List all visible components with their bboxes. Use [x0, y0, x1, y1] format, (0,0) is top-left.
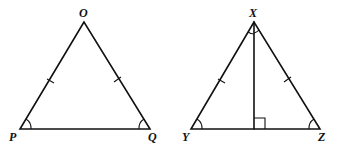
label-p: P [9, 130, 17, 144]
geometry-diagram: O P Q X Y Z [0, 0, 339, 151]
triangle-opq-outline [20, 22, 150, 129]
angle-arc-y [197, 119, 202, 129]
label-z: Z [317, 130, 326, 144]
triangle-xyz-outline [191, 22, 320, 129]
angle-arc-x-left [248, 32, 254, 34]
triangle-xyz: X Y Z [182, 6, 326, 144]
triangle-opq: O P Q [9, 6, 157, 144]
label-o: O [79, 6, 88, 20]
right-angle-mark [254, 118, 265, 129]
label-y: Y [182, 130, 191, 144]
label-x: X [248, 6, 258, 20]
label-q: Q [148, 130, 157, 144]
angle-arc-p [26, 119, 31, 129]
angle-arc-z [309, 119, 314, 129]
angle-arc-q [139, 119, 144, 129]
